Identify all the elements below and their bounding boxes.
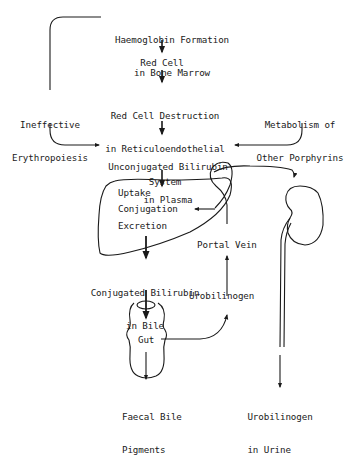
haemoglobin-line2: in Bone Marrow [115, 67, 229, 78]
unconjugated-line1: Unconjugated Bilirubin [108, 161, 228, 172]
faecal-line1: Faecal Bile [122, 411, 182, 422]
other-porphyrins-label: Metabolism of Other Porphyrins [257, 97, 344, 185]
urine-line1: Urobilinogen [247, 411, 312, 422]
porphyrins-line1: Metabolism of [257, 119, 344, 130]
destruction-line1: Red Cell Destruction [105, 110, 225, 121]
excretion-label: Excretion [118, 220, 167, 231]
urobilinogen-label: Urobilinogen [189, 290, 254, 301]
ineffective-erythropoiesis-label: Ineffective Erythropoiesis [12, 97, 88, 185]
conjugated-line1: Conjugated Bilirubin [91, 287, 200, 298]
red-cell-label: Red Cell [140, 57, 183, 68]
faecal-bile-pigments-label: Faecal Bile Pigments [122, 389, 182, 459]
haemoglobin-formation-label: Haemoglobin Formation in Bone Marrow [115, 12, 229, 100]
porphyrins-line2: Other Porphyrins [257, 152, 344, 163]
portal-vein-label: Portal Vein [197, 239, 257, 250]
conjugation-label: Conjugation [118, 203, 178, 214]
ineffective-line1: Ineffective [12, 119, 88, 130]
urobilinogen-in-urine-label: Urobilinogen in Urine [247, 389, 312, 459]
conjugated-line2: in Bile [91, 320, 200, 331]
ureter-right [284, 223, 291, 347]
urine-line2: in Urine [247, 444, 312, 455]
haemoglobin-line1: Haemoglobin Formation [115, 34, 229, 45]
uptake-label: Uptake [118, 187, 151, 198]
gut-label: Gut [138, 334, 154, 345]
faecal-line2: Pigments [122, 444, 182, 455]
erythropoiesis-top-connector [50, 17, 101, 90]
kidney-outline-icon [286, 186, 323, 245]
ineffective-line2: Erythropoiesis [12, 152, 88, 163]
